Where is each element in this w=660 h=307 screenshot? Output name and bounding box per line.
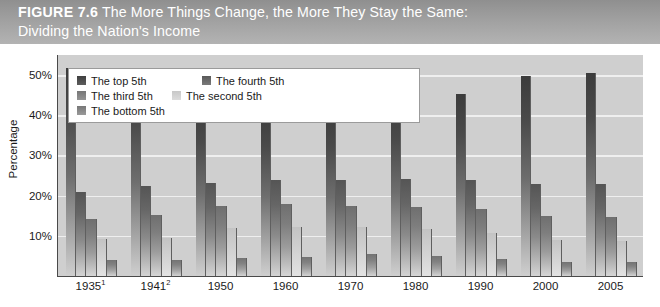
legend-item-label: The top 5th <box>91 75 147 87</box>
y-axis-tick-label: 30% <box>29 149 52 161</box>
bar <box>76 192 86 276</box>
x-axis-tick-label: 19351 <box>76 280 106 292</box>
x-axis-tick-label: 1990 <box>468 280 494 292</box>
figure-title-line-1: FIGURE 7.6 The More Things Change, the M… <box>18 3 660 22</box>
legend-item-label: The bottom 5th <box>91 105 165 117</box>
bar <box>357 227 367 276</box>
bar <box>617 241 627 276</box>
bar <box>172 260 182 276</box>
bar <box>521 76 531 276</box>
chart-legend: The top 5thThe fourth 5thThe third 5thTh… <box>68 68 420 123</box>
legend-item-label: The third 5th <box>91 90 153 102</box>
bar <box>586 73 596 276</box>
bar <box>596 184 606 276</box>
bar <box>206 183 216 276</box>
figure-number-label: FIGURE 7.6 <box>18 4 98 20</box>
bar <box>466 180 476 276</box>
bar <box>391 102 401 276</box>
bar <box>456 94 466 276</box>
light-gray-swatch <box>172 91 181 100</box>
figure-container: FIGURE 7.6 The More Things Change, the M… <box>0 0 660 307</box>
bar <box>326 112 336 276</box>
x-axis-tick-label: 1960 <box>273 280 299 292</box>
y-axis-tick-label: 50% <box>29 69 52 81</box>
bar <box>346 206 356 276</box>
footer-strip <box>0 302 660 307</box>
legend-item: The fourth 5th <box>202 73 330 88</box>
bar <box>552 240 562 276</box>
legend-item: The second 5th <box>172 88 297 103</box>
bar <box>411 207 421 276</box>
bar-group <box>586 55 638 276</box>
bar <box>162 238 172 276</box>
legend-item: The top 5th <box>77 73 202 88</box>
figure-title-line-2: Dividing the Nation's Income <box>18 22 660 41</box>
medium-gray-swatch <box>77 91 86 100</box>
bar <box>196 104 206 276</box>
bar <box>336 180 346 276</box>
x-axis-tick-label: 19412 <box>141 280 171 292</box>
bar <box>237 258 247 276</box>
bar <box>487 233 497 276</box>
figure-title-text-1: The More Things Change, the More They St… <box>102 4 468 20</box>
bar <box>367 254 377 276</box>
bar <box>401 179 411 276</box>
legend-item-label: The fourth 5th <box>216 75 285 87</box>
bar-group <box>456 55 508 276</box>
bar <box>107 260 117 276</box>
bar <box>86 219 96 276</box>
y-axis-tick-label: 40% <box>29 109 52 121</box>
bar <box>292 227 302 276</box>
bar <box>531 184 541 276</box>
bar <box>216 206 226 276</box>
y-axis-tick-label: 20% <box>29 190 52 202</box>
bar <box>476 209 486 276</box>
bar <box>151 215 161 276</box>
bar <box>432 256 442 276</box>
bar <box>562 262 572 276</box>
bar <box>541 216 551 276</box>
bar <box>606 217 616 276</box>
bar <box>302 257 312 276</box>
legend-item: The bottom 5th <box>77 103 205 118</box>
medium-dark-gray-swatch <box>202 76 211 85</box>
dark-gray-swatch <box>77 76 86 85</box>
bar <box>627 262 637 276</box>
chart-area: Percentage 10%20%30%40%50% 1935119412195… <box>0 44 660 302</box>
mid-gray-swatch <box>77 106 86 115</box>
x-axis-tick-label: 2005 <box>598 280 624 292</box>
bar <box>141 186 151 276</box>
bar <box>271 180 281 276</box>
legend-item: The third 5th <box>77 88 172 103</box>
bar-group <box>521 55 573 276</box>
x-axis-tick-label: 1980 <box>403 280 429 292</box>
bar <box>227 228 237 276</box>
x-axis-tick-label: 1970 <box>338 280 364 292</box>
legend-item-label: The second 5th <box>186 90 262 102</box>
bar <box>261 110 271 276</box>
bar <box>422 229 432 276</box>
figure-title-banner: FIGURE 7.6 The More Things Change, the M… <box>0 0 660 44</box>
bar <box>281 204 291 276</box>
bar <box>497 259 507 276</box>
y-axis-tick-label: 10% <box>29 230 52 242</box>
x-axis-tick-labels: 19351194121950196019701980199020002005 <box>57 280 642 300</box>
y-axis-tick-labels: 10%20%30%40%50% <box>0 55 52 276</box>
bar <box>97 239 107 276</box>
x-axis-tick-label: 1950 <box>208 280 234 292</box>
figure-title-text-2: Dividing the Nation's Income <box>18 23 200 39</box>
x-axis-tick-label: 2000 <box>533 280 559 292</box>
